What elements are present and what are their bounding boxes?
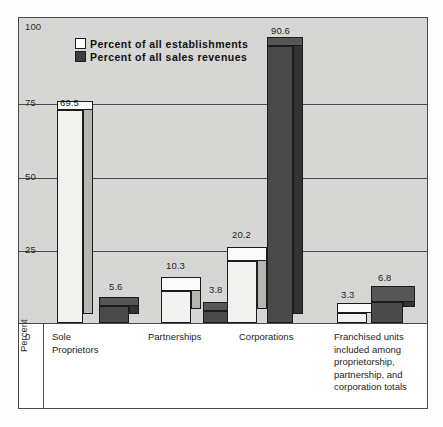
ytick-100: 100 bbox=[25, 21, 41, 32]
legend-swatch-light-icon bbox=[75, 38, 86, 49]
bar-sole-proprietors-revenues bbox=[99, 297, 139, 323]
legend-item-revenues: Percent of all sales revenues bbox=[75, 50, 248, 63]
value-label-franchised-revenues: 6.8 bbox=[378, 272, 392, 283]
legend-label-establishments: Percent of all establishments bbox=[90, 38, 248, 50]
legend-item-establishments: Percent of all establishments bbox=[75, 37, 248, 50]
legend-swatch-dark-icon bbox=[75, 51, 86, 62]
legend: Percent of all establishments Percent of… bbox=[75, 37, 248, 63]
legend-label-revenues: Percent of all sales revenues bbox=[90, 51, 247, 63]
ytick-75: 75 bbox=[25, 97, 36, 108]
bar-partnerships-establishments bbox=[161, 277, 201, 323]
y-axis-title: Percent bbox=[18, 319, 29, 352]
value-label-partnerships-revenues: 3.8 bbox=[209, 284, 223, 295]
value-label-sole-establishments: 69.5 bbox=[60, 97, 79, 108]
chart-figure: Percent of all establishments Percent of… bbox=[0, 0, 443, 427]
category-label-corporations: Corporations bbox=[239, 331, 329, 344]
value-label-sole-revenues: 5.6 bbox=[109, 281, 123, 292]
value-label-franchised-establishments: 3.3 bbox=[341, 289, 355, 300]
bar-franchised-revenues bbox=[371, 286, 415, 323]
caption-divider bbox=[43, 324, 44, 409]
value-label-partnerships-establishments: 10.3 bbox=[166, 260, 185, 271]
ytick-25: 25 bbox=[25, 244, 36, 255]
value-label-corporations-revenues: 90.6 bbox=[271, 25, 290, 36]
plot-area: Percent of all establishments Percent of… bbox=[18, 17, 428, 324]
bar-sole-proprietors-establishments bbox=[57, 101, 93, 323]
bar-corporations-establishments bbox=[227, 247, 267, 323]
category-label-franchised-units: Franchised units included among propriet… bbox=[334, 331, 426, 394]
category-label-sole-proprietors: Sole Proprietors bbox=[52, 331, 132, 356]
value-label-corporations-establishments: 20.2 bbox=[232, 229, 251, 240]
category-label-partnerships: Partnerships bbox=[148, 331, 238, 344]
bar-corporations-revenues bbox=[267, 37, 303, 323]
ytick-50: 50 bbox=[25, 171, 36, 182]
